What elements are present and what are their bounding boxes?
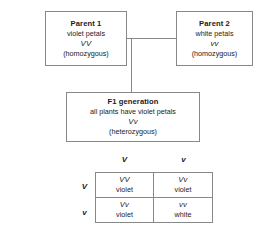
punnett-cell-genotype: Vv — [120, 200, 129, 210]
parent2-genotype: vv — [210, 39, 218, 49]
punnett-cell-genotype: vv — [179, 200, 187, 210]
f1-generation-box: F1 generation all plants have violet pet… — [66, 92, 200, 142]
punnett-grid: VV violet Vv violet Vv violet vv white — [95, 172, 213, 223]
parent2-zygosity: (homozygous) — [192, 49, 238, 59]
parent1-zygosity: (homozygous) — [63, 49, 109, 59]
parent1-genotype: VV — [81, 39, 92, 49]
parent2-title: Parent 2 — [199, 19, 230, 29]
punnett-cell-genotype: VV — [119, 175, 130, 185]
genetics-cross-diagram: Parent 1 violet petals VV (homozygous) P… — [0, 0, 261, 228]
f1-descent-connector-line — [131, 38, 132, 92]
f1-genotype: Vv — [128, 117, 138, 127]
punnett-cell: Vv violet — [96, 198, 154, 223]
punnett-cell: vv white — [154, 198, 212, 223]
punnett-row-header-V: V — [76, 182, 93, 192]
parents-cross-connector-line — [127, 38, 176, 39]
punnett-row-header-v: v — [76, 208, 93, 218]
punnett-cell-phenotype: violet — [116, 210, 133, 220]
f1-title: F1 generation — [107, 97, 158, 107]
f1-phenotype: all plants have violet petals — [90, 107, 176, 117]
parent1-phenotype: violet petals — [67, 29, 105, 39]
punnett-cell-phenotype: white — [175, 210, 192, 220]
f1-zygosity: (heterozygous) — [109, 127, 157, 137]
punnett-cell: VV violet — [96, 173, 154, 198]
punnett-column-header-V: V — [95, 155, 154, 165]
parent2-box: Parent 2 white petals vv (homozygous) — [176, 11, 253, 66]
punnett-column-header-v: v — [154, 155, 213, 165]
punnett-cell-phenotype: violet — [116, 185, 133, 195]
parent1-box: Parent 1 violet petals VV (homozygous) — [45, 11, 127, 66]
parent1-title: Parent 1 — [71, 19, 102, 29]
parent2-phenotype: white petals — [196, 29, 234, 39]
punnett-cell-genotype: Vv — [178, 175, 187, 185]
punnett-square: V v V v VV violet Vv violet Vv violet vv… — [76, 150, 213, 223]
punnett-cell: Vv violet — [154, 173, 212, 198]
punnett-cell-phenotype: violet — [175, 185, 192, 195]
